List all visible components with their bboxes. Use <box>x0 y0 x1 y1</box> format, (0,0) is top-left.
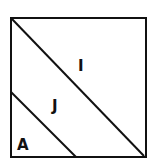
region-label-a: A <box>17 136 29 154</box>
region-label-j: J <box>51 97 58 115</box>
main-diagonal-line <box>12 19 144 156</box>
region-diagram: I J A <box>0 0 154 163</box>
region-label-i: I <box>78 57 84 75</box>
